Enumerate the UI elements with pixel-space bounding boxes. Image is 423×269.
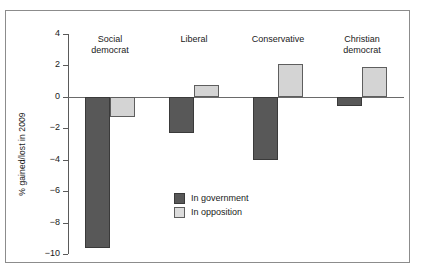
bar-in-opposition (278, 64, 303, 97)
plot-area: 420−2−4−6−8−10 SocialdemocratLiberalCons… (68, 34, 404, 254)
bar-group: Conservative (236, 34, 320, 254)
bar-in-government (85, 97, 110, 248)
bar-group: Socialdemocrat (68, 34, 152, 254)
category-label: Socialdemocrat (91, 34, 129, 55)
category-label-line: Social (91, 34, 129, 45)
bar-group: Christiandemocrat (320, 34, 404, 254)
category-label-line: Liberal (180, 34, 207, 45)
y-tick-label: −4 (50, 154, 60, 164)
bar-in-opposition (362, 67, 387, 97)
legend-item: In opposition (174, 205, 249, 219)
bar-in-government (253, 97, 278, 160)
category-label-line: democrat (91, 45, 129, 56)
bar-in-government (337, 97, 362, 106)
y-tick-label: 2 (55, 59, 60, 69)
y-tick: −10 (63, 254, 68, 255)
light-gray-swatch (174, 207, 185, 218)
category-label: Conservative (252, 34, 305, 45)
bar-chart-figure: % gained/lost in 2009 420−2−4−6−8−10 Soc… (0, 0, 423, 269)
y-tick-label: 4 (55, 28, 60, 38)
y-tick-label: −6 (50, 185, 60, 195)
category-label: Christiandemocrat (343, 34, 381, 55)
bar-in-opposition (194, 85, 219, 97)
legend-label: In government (191, 193, 249, 203)
category-label-line: Conservative (252, 34, 305, 45)
legend-item: In government (174, 191, 249, 205)
y-axis-label: % gained/lost in 2009 (17, 94, 27, 214)
category-label-line: democrat (343, 45, 381, 56)
legend-label: In opposition (191, 207, 242, 217)
category-label: Liberal (180, 34, 207, 45)
bar-group: Liberal (152, 34, 236, 254)
y-tick-label: −10 (45, 248, 60, 258)
category-label-line: Christian (343, 34, 381, 45)
y-tick-label: −8 (50, 217, 60, 227)
chart-frame: % gained/lost in 2009 420−2−4−6−8−10 Soc… (5, 10, 410, 263)
bar-in-opposition (110, 97, 135, 117)
y-tick-label: −2 (50, 122, 60, 132)
y-tick-label: 0 (55, 91, 60, 101)
bar-in-government (169, 97, 194, 133)
chart-legend: In governmentIn opposition (174, 191, 249, 219)
dark-gray-swatch (174, 193, 185, 204)
